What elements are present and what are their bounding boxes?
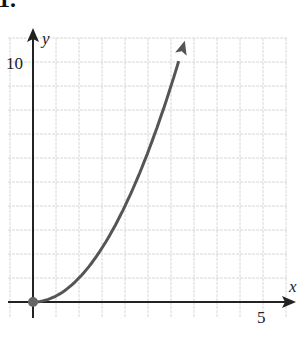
- curve-arrow-icon: [175, 41, 187, 56]
- start-point-dot: [28, 297, 38, 307]
- x-tick-5: 5: [257, 308, 266, 327]
- y-axis: [27, 28, 39, 318]
- grid: [8, 38, 288, 318]
- chart: x y 5 10: [0, 0, 302, 337]
- x-axis-label: x: [288, 277, 297, 296]
- y-axis-label: y: [40, 29, 50, 48]
- y-tick-10: 10: [6, 54, 23, 73]
